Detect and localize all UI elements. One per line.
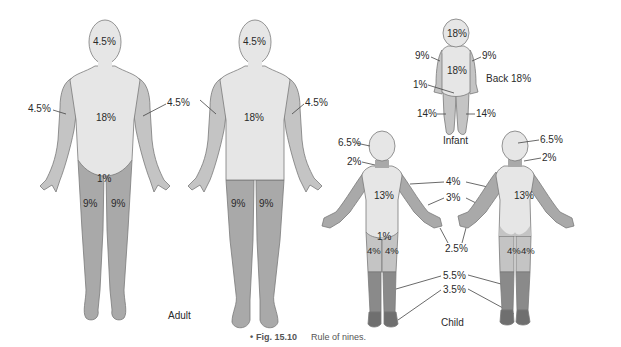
adult-back-trunk-label: 18%	[244, 112, 264, 123]
child-forearm-label: 3%	[446, 192, 461, 203]
adult-back-figure	[188, 20, 322, 328]
child-front-neck-label: 2%	[347, 156, 362, 167]
child-lower-leg-label: 5.5%	[443, 270, 466, 281]
child-back-left-thigh-label: 4%	[507, 245, 521, 256]
adult-back-right-leg-label: 9%	[259, 198, 274, 209]
adult-back-trunk	[220, 66, 290, 180]
adult-back-right-arm-label: 4.5%	[305, 97, 328, 108]
adult-front-left-arm-label: 4.5%	[28, 103, 51, 114]
leader-line	[462, 228, 466, 243]
child-front-right-thigh-label: 4%	[385, 245, 399, 256]
leader-line	[396, 276, 441, 289]
child-front-right-lower-leg	[383, 272, 396, 312]
infant-left-leg	[443, 92, 456, 135]
caption-text: Rule of nines.	[311, 332, 366, 342]
adult-back-left-leg-label: 9%	[231, 198, 246, 209]
leader-line	[428, 198, 444, 205]
caption-bullet: •	[250, 332, 253, 342]
leader-line	[398, 290, 441, 320]
child-back-head	[502, 131, 528, 161]
child-upper-arm-label: 4%	[446, 176, 461, 187]
child-group-label: Child	[441, 317, 464, 328]
infant-back-note: Back 18%	[486, 73, 531, 84]
child-front-left-thigh-label: 4%	[367, 245, 381, 256]
figure-caption: • Fig. 15.10 Rule of nines.	[250, 332, 366, 342]
infant-right-leg-label: 14%	[476, 108, 496, 119]
rule-of-nines-diagram: 4.5% 4.5% 4.5% 18% 1% 9% 9% Adult 4.5% 4…	[0, 0, 621, 347]
infant-left-arm-label: 9%	[415, 50, 430, 61]
infant-right-leg	[456, 92, 469, 135]
infant-right-arm-label: 9%	[482, 50, 497, 61]
infant-left-leg-label: 14%	[417, 108, 437, 119]
leader-line	[362, 162, 375, 165]
child-back-neck-label: 2%	[542, 152, 557, 163]
child-back-trunk	[496, 166, 534, 236]
adult-front-right-arm-label: 4.5%	[167, 97, 190, 108]
infant-trunk-label: 18%	[447, 65, 467, 76]
child-back-right-foot	[516, 310, 530, 325]
adult-front-trunk-label: 18%	[96, 112, 116, 123]
child-back-left-foot	[500, 310, 514, 325]
child-back-head-label: 6.5%	[540, 134, 563, 145]
child-back-figure	[458, 131, 574, 325]
child-front-head	[369, 131, 395, 161]
child-back-right-arm	[528, 172, 574, 228]
infant-group-label: Infant	[443, 135, 468, 146]
child-back-right-thigh-label: 4%	[521, 245, 535, 256]
leader-line	[524, 158, 541, 161]
infant-genitalia-label: 1%	[413, 79, 428, 90]
adult-front-left-leg-label: 9%	[83, 198, 98, 209]
child-foot-label: 3.5%	[443, 284, 466, 295]
child-back-left-lower-leg	[500, 272, 514, 310]
adult-front-figure	[40, 20, 170, 320]
infant-head-label: 18%	[447, 28, 467, 39]
child-back-right-lower-leg	[516, 272, 530, 310]
leader-line	[440, 228, 448, 243]
child-front-left-lower-leg	[368, 272, 381, 312]
child-front-right-arm	[396, 172, 442, 228]
child-front-left-foot	[368, 312, 381, 327]
adult-back-head-label: 4.5%	[243, 36, 266, 47]
child-hand-label: 2.5%	[445, 243, 468, 254]
leader-line	[410, 182, 444, 184]
child-front-left-arm	[322, 172, 368, 228]
adult-group-label: Adult	[168, 310, 191, 321]
child-back-trunk-label: 13%	[514, 190, 534, 201]
child-front-right-foot	[384, 312, 398, 327]
child-front-trunk	[362, 166, 402, 238]
adult-front-head-label: 4.5%	[93, 36, 116, 47]
child-front-figure	[322, 131, 442, 327]
child-front-head-label: 6.5%	[338, 137, 361, 148]
adult-front-genitalia-label: 1%	[97, 173, 112, 184]
child-front-trunk-label: 13%	[374, 190, 394, 201]
adult-front-right-leg-label: 9%	[111, 198, 126, 209]
caption-figure-number: Fig. 15.10	[256, 332, 297, 342]
child-front-genitalia-label: 1%	[377, 231, 392, 242]
